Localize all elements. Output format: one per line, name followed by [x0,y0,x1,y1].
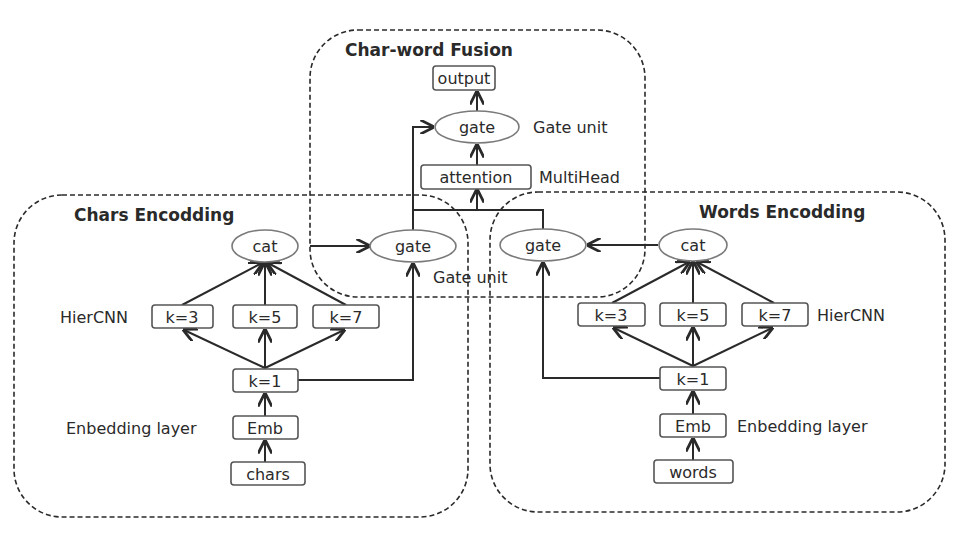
chars-embedding-label: Enbedding layer [66,419,197,438]
edge-w-k3-to-cat [612,262,689,303]
words-input-node: words [654,460,733,483]
edge-k1-to-k3 [184,330,265,368]
svg-text:k=7: k=7 [759,306,792,325]
edge-k1-to-k7 [265,330,344,368]
multihead-label: MultiHead [539,168,620,187]
fusion-gate-node: gate [435,111,519,143]
chars-input-node: chars [231,462,305,485]
words-cat-node: cat [659,229,727,261]
chars-emb-node: Emb [233,416,298,439]
words-embedding-label: Enbedding layer [737,417,868,436]
words-k5-node: k=5 [660,303,726,326]
svg-text:k=1: k=1 [249,372,282,391]
chars-k7-node: k=7 [313,305,379,328]
chars-cat-text: cat [253,237,278,256]
fusion-gate-label: Gate unit [533,118,607,137]
words-hiercnn-label: HierCNN [817,306,885,325]
svg-text:k=3: k=3 [166,308,199,327]
fusion-title: Char-word Fusion [345,40,513,60]
edge-gates-connector [413,210,543,229]
svg-text:chars: chars [246,465,290,484]
svg-text:k=3: k=3 [595,306,628,325]
output-node: output [433,66,495,90]
output-text: output [438,69,491,88]
edge-k7-to-cat [268,263,346,305]
edge-w-k1-to-k3 [614,328,693,366]
chars-gate-text: gate [395,237,431,256]
fusion-gate-text: gate [459,118,495,137]
words-emb-node: Emb [660,414,726,437]
chars-k3-node: k=3 [152,305,213,328]
chars-k5-node: k=5 [233,305,297,328]
svg-text:Emb: Emb [675,417,711,436]
lower-gate-unit-label: Gate unit [433,268,507,287]
words-k3-node: k=3 [578,303,645,326]
chars-hiercnn-label: HierCNN [60,308,128,327]
architecture-diagram: Char-word Fusion Chars Encodding Words E… [0,0,957,549]
edge-w-k7-to-cat [697,262,774,303]
svg-text:k=5: k=5 [677,306,710,325]
words-k7-node: k=7 [742,303,808,326]
svg-text:k=7: k=7 [330,308,363,327]
chars-gate-node: gate [370,230,456,262]
attention-text: attention [440,168,513,187]
words-gate-text: gate [525,236,561,255]
chars-encoding-title: Chars Encodding [74,205,234,225]
svg-text:Emb: Emb [247,419,283,438]
words-cat-text: cat [681,236,706,255]
edge-w-k1-to-k7 [693,328,772,366]
chars-k1-node: k=1 [233,369,298,392]
svg-text:k=1: k=1 [677,370,710,389]
attention-node: attention [421,165,531,189]
words-gate-node: gate [500,229,586,261]
svg-text:words: words [669,463,717,482]
svg-text:k=5: k=5 [249,308,282,327]
words-encoding-title: Words Encodding [699,202,865,222]
words-k1-node: k=1 [660,367,726,390]
chars-cat-node: cat [232,230,298,262]
edge-k3-to-cat [182,263,262,305]
